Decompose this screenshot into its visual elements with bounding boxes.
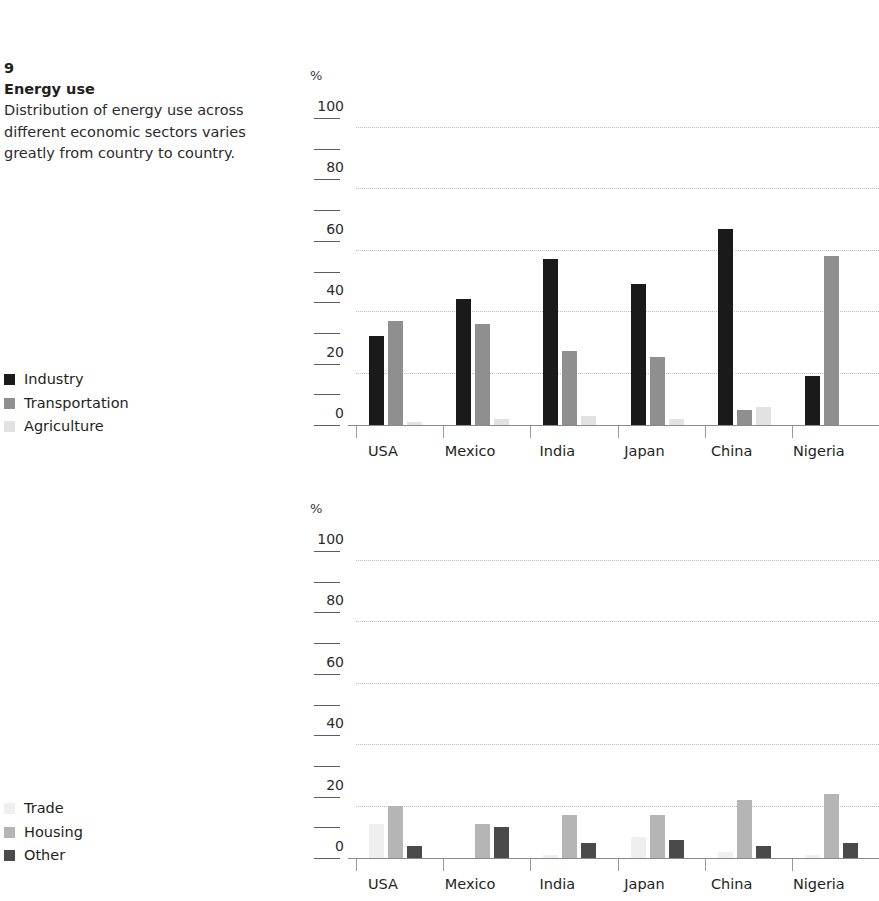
y-axis-tick-label: 40 bbox=[310, 715, 344, 731]
x-axis-category-tick bbox=[530, 859, 531, 871]
gridline bbox=[356, 683, 879, 684]
legend-item: Agriculture bbox=[4, 415, 129, 439]
legend-top: IndustryTransportationAgriculture bbox=[4, 368, 129, 439]
bar-other-usa bbox=[407, 846, 422, 858]
gridline bbox=[356, 188, 879, 189]
gridline bbox=[356, 127, 879, 128]
legend-label: Trade bbox=[24, 797, 64, 821]
x-axis-category-tick bbox=[443, 859, 444, 871]
y-axis-tick-label: 100 bbox=[310, 98, 344, 114]
gridline bbox=[356, 806, 879, 807]
y-axis-tick bbox=[314, 118, 340, 119]
x-axis-category-tick bbox=[705, 426, 706, 438]
y-axis-tick-label: 80 bbox=[310, 159, 344, 175]
legend-bottom: TradeHousingOther bbox=[4, 797, 83, 868]
figure-number: 9 bbox=[4, 58, 254, 79]
y-axis-tick bbox=[314, 674, 340, 675]
x-axis-category-tick bbox=[356, 859, 357, 871]
y-axis-minor-tick bbox=[314, 149, 340, 150]
bar-transportation-nigeria bbox=[824, 256, 839, 425]
bar-housing-japan bbox=[650, 815, 665, 858]
y-axis-minor-tick bbox=[314, 827, 340, 828]
x-axis-category-label: USA bbox=[339, 876, 426, 892]
y-axis-minor-tick bbox=[314, 582, 340, 583]
bar-trade-japan bbox=[631, 837, 646, 858]
y-axis-tick-label: 0 bbox=[310, 405, 344, 421]
x-axis-category-tick bbox=[356, 426, 357, 438]
bar-housing-mexico bbox=[475, 824, 490, 858]
bar-industry-india bbox=[543, 259, 558, 425]
chart-page: 9 Energy use Distribution of energy use … bbox=[0, 0, 879, 901]
chart-bottom: %020406080100USAMexicoIndiaJapanChinaNig… bbox=[306, 495, 879, 901]
y-axis-tick-label: 80 bbox=[310, 592, 344, 608]
y-axis-tick bbox=[314, 241, 340, 242]
bar-agriculture-india bbox=[581, 416, 596, 425]
x-axis-category-tick bbox=[792, 859, 793, 871]
y-axis-tick bbox=[314, 302, 340, 303]
legend-swatch-icon bbox=[4, 421, 15, 432]
y-axis-tick bbox=[314, 735, 340, 736]
bar-other-india bbox=[581, 843, 596, 858]
bar-transportation-japan bbox=[650, 357, 665, 425]
y-axis-minor-tick bbox=[314, 705, 340, 706]
bar-housing-china bbox=[737, 800, 752, 858]
x-axis-category-label: China bbox=[688, 443, 775, 459]
bar-other-china bbox=[756, 846, 771, 858]
legend-swatch-icon bbox=[4, 850, 15, 861]
bar-agriculture-japan bbox=[669, 419, 684, 425]
x-axis-category-tick bbox=[530, 426, 531, 438]
y-axis-tick bbox=[314, 551, 340, 552]
legend-label: Transportation bbox=[24, 392, 129, 416]
y-axis-tick bbox=[314, 612, 340, 613]
bar-industry-mexico bbox=[456, 299, 471, 425]
x-axis-category-tick bbox=[792, 426, 793, 438]
bar-agriculture-mexico bbox=[494, 419, 509, 425]
x-axis-category-tick bbox=[618, 859, 619, 871]
x-axis-category-tick bbox=[443, 426, 444, 438]
caption-text: Distribution of energy use across differ… bbox=[4, 100, 254, 165]
y-axis-minor-tick bbox=[314, 333, 340, 334]
y-axis-tick-label: 20 bbox=[310, 344, 344, 360]
x-axis-category-label: USA bbox=[339, 443, 426, 459]
page-title: Energy use bbox=[4, 79, 254, 100]
y-axis-unit-label: % bbox=[310, 68, 322, 83]
bar-transportation-mexico bbox=[475, 324, 490, 425]
y-axis-tick bbox=[314, 425, 340, 426]
legend-item: Transportation bbox=[4, 392, 129, 416]
legend-label: Industry bbox=[24, 368, 84, 392]
y-axis-tick-label: 40 bbox=[310, 282, 344, 298]
y-axis-tick bbox=[314, 797, 340, 798]
x-axis-category-label: India bbox=[514, 876, 601, 892]
y-axis-tick-label: 60 bbox=[310, 221, 344, 237]
gridline bbox=[356, 250, 879, 251]
bar-transportation-china bbox=[737, 410, 752, 425]
bar-industry-china bbox=[718, 229, 733, 425]
bar-transportation-usa bbox=[388, 321, 403, 425]
legend-label: Other bbox=[24, 844, 65, 868]
bar-trade-nigeria bbox=[805, 855, 820, 858]
bar-agriculture-usa bbox=[407, 422, 422, 425]
bar-trade-china bbox=[718, 852, 733, 858]
bar-housing-nigeria bbox=[824, 794, 839, 858]
x-axis-category-label: Mexico bbox=[427, 876, 514, 892]
y-axis-unit-label: % bbox=[310, 501, 322, 516]
y-axis-minor-tick bbox=[314, 210, 340, 211]
gridline bbox=[356, 621, 879, 622]
legend-item: Housing bbox=[4, 821, 83, 845]
bar-housing-usa bbox=[388, 806, 403, 858]
caption-block: 9 Energy use Distribution of energy use … bbox=[4, 58, 254, 165]
gridline bbox=[356, 560, 879, 561]
x-axis-baseline bbox=[348, 858, 879, 859]
y-axis-tick-label: 0 bbox=[310, 838, 344, 854]
gridline bbox=[356, 373, 879, 374]
legend-item: Other bbox=[4, 844, 83, 868]
y-axis-tick bbox=[314, 858, 340, 859]
legend-swatch-icon bbox=[4, 827, 15, 838]
y-axis-tick bbox=[314, 364, 340, 365]
gridline bbox=[356, 311, 879, 312]
legend-swatch-icon bbox=[4, 803, 15, 814]
bar-agriculture-china bbox=[756, 407, 771, 425]
y-axis-minor-tick bbox=[314, 272, 340, 273]
bar-industry-japan bbox=[631, 284, 646, 425]
legend-item: Trade bbox=[4, 797, 83, 821]
